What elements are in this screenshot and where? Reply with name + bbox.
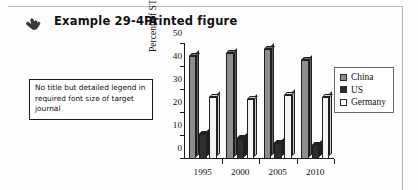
bar-germany-2000 [247,99,255,159]
legend-swatch-us [340,86,347,93]
bar-germany-1995 [209,97,217,159]
example-label: Example 29-4 A [54,14,157,28]
bar-us-2000 [237,138,245,159]
bar-us-1995 [199,134,207,159]
y-tick-label: 0 [162,143,182,153]
y-tick-label: 40 [162,51,182,61]
plot-area: 01020304050 1995200020052010 [184,44,334,159]
bar-china-1995 [189,56,197,160]
legend-label-germany: Germany [351,97,386,107]
pointing-hand-icon [24,16,44,32]
legend-item-china: China [340,71,386,84]
annotation-callout: No title but detailed legend in required… [29,79,153,120]
legend-label-us: US [351,85,363,95]
y-tick [180,89,185,90]
x-tick-label: 1995 [183,167,223,177]
legend-item-germany: Germany [340,96,386,109]
bar-us-2010 [312,145,320,159]
legend-swatch-china [340,74,347,81]
x-tick-label: 2005 [258,167,298,177]
x-tick [222,159,223,164]
bar-germany-2010 [322,97,330,159]
y-tick [180,135,185,136]
legend-item-us: US [340,84,386,97]
legend-swatch-germany [340,99,347,106]
y-tick-label: 20 [162,97,182,107]
y-tick [180,158,185,159]
y-axis-line [184,44,185,159]
x-tick-label: 2000 [220,167,260,177]
chart-legend: China US Germany [334,67,394,113]
y-tick-label: 50 [162,28,182,38]
x-tick [334,159,335,164]
bar-us-2005 [274,143,282,159]
x-tick [259,159,260,164]
y-tick [180,112,185,113]
legend-label-china: China [351,72,373,82]
x-tick-label: 2010 [295,167,335,177]
y-tick [180,66,185,67]
page-top-rule [8,6,403,7]
bar-china-2010 [301,60,309,159]
page-canvas: Example 29-4 A Printed figure No title b… [0,0,418,190]
bar-china-2005 [264,49,272,159]
page-right-rule [402,6,403,190]
y-tick-label: 30 [162,74,182,84]
bar-china-2000 [226,53,234,159]
bar-germany-2005 [284,95,292,159]
y-tick [180,43,185,44]
y-tick-label: 10 [162,120,182,130]
y-axis-title: Percent of STEM graduates [147,0,159,52]
x-tick [297,159,298,164]
